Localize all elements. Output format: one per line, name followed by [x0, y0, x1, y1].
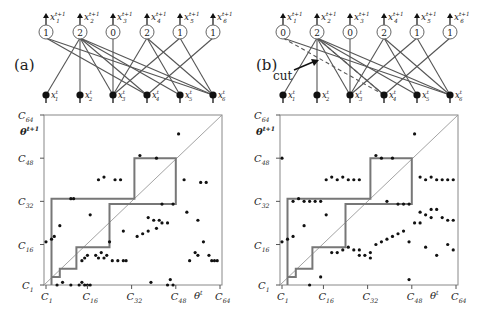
data-point — [83, 283, 86, 286]
dashed-edge — [283, 38, 384, 95]
data-point — [402, 202, 405, 205]
data-point — [185, 211, 188, 214]
data-point — [55, 283, 58, 286]
data-point — [302, 200, 305, 203]
data-point — [155, 227, 158, 230]
data-point — [358, 248, 361, 251]
data-point — [452, 219, 455, 222]
panel-b: (b)0xt+112xt+120xt+132xt+141xt+151xt+16x… — [254, 11, 470, 304]
output-label: xt+12 — [84, 11, 100, 24]
edge — [384, 38, 417, 95]
data-point — [177, 132, 180, 135]
data-point — [369, 256, 372, 259]
output-count: 0 — [110, 28, 116, 38]
data-point — [325, 178, 328, 181]
y-tick-label: C32 — [18, 196, 34, 209]
data-point — [297, 197, 300, 200]
data-point — [347, 246, 350, 249]
edge — [350, 38, 417, 95]
data-point — [452, 248, 455, 251]
data-point — [108, 240, 111, 243]
data-point — [424, 213, 427, 216]
data-point — [308, 200, 311, 203]
input-label: xt3 — [118, 89, 126, 101]
data-point — [102, 256, 105, 259]
data-point — [69, 283, 72, 286]
output-count: 0 — [347, 28, 353, 38]
data-point — [97, 256, 100, 259]
output-count: 0 — [280, 28, 286, 38]
data-point — [358, 178, 361, 181]
arrow-head-icon — [381, 13, 387, 18]
output-label: xt+11 — [287, 11, 303, 24]
data-point — [430, 216, 433, 219]
arrow-head-icon — [177, 13, 183, 18]
data-point — [418, 211, 421, 214]
data-point — [291, 200, 294, 203]
data-point — [280, 240, 283, 243]
data-point — [391, 157, 394, 160]
input-label: xt5 — [422, 89, 430, 101]
data-point — [396, 232, 399, 235]
data-point — [291, 235, 294, 238]
arrow-head-icon — [43, 13, 49, 18]
data-point — [314, 200, 317, 203]
data-point — [188, 259, 191, 262]
data-point — [330, 251, 333, 254]
data-point — [341, 248, 344, 251]
data-point — [286, 238, 289, 241]
y-axis-label: θt+1 — [20, 125, 39, 138]
x-tick-label: C1 — [277, 291, 289, 304]
y-tick-label: C1 — [258, 280, 270, 293]
data-point — [58, 224, 61, 227]
x-tick-label: C48 — [407, 291, 423, 304]
output-label: xt+15 — [421, 11, 437, 24]
data-point — [196, 254, 199, 257]
data-point — [138, 154, 141, 157]
output-count: 1 — [43, 28, 49, 38]
data-point — [147, 216, 150, 219]
input-label: xt4 — [389, 89, 397, 101]
figure: (a)1xt+112xt+120xt+132xt+141xt+151xt+16x… — [0, 0, 480, 317]
input-label: xt6 — [218, 89, 226, 101]
output-count: 1 — [210, 28, 216, 38]
input-label: xt1 — [288, 89, 296, 101]
data-point — [202, 240, 205, 243]
panel-label: (a) — [14, 56, 35, 74]
data-point — [446, 243, 449, 246]
data-point — [207, 254, 210, 257]
output-label: xt+16 — [454, 11, 470, 24]
edge — [147, 38, 180, 95]
data-point — [385, 200, 388, 203]
data-point — [136, 235, 139, 238]
y-tick-label: C1 — [22, 280, 34, 293]
data-point — [418, 175, 421, 178]
input-label: xt1 — [51, 89, 59, 101]
data-point — [441, 178, 444, 181]
data-point — [171, 202, 174, 205]
data-point — [435, 254, 438, 257]
data-point — [124, 259, 127, 262]
data-point — [325, 213, 328, 216]
arrow-head-icon — [447, 13, 453, 18]
data-point — [352, 248, 355, 251]
data-point — [182, 178, 185, 181]
network-diagram: (a)1xt+112xt+120xt+132xt+141xt+151xt+16x… — [14, 11, 233, 103]
data-point — [446, 178, 449, 181]
edge — [113, 38, 147, 95]
data-point — [160, 202, 163, 205]
data-point — [308, 283, 311, 286]
x-tick-label: C16 — [82, 291, 98, 304]
x-tick-label: C64 — [215, 291, 231, 304]
data-point — [100, 251, 103, 254]
arrow-head-icon — [414, 13, 420, 18]
data-point — [358, 254, 361, 257]
output-label: xt+16 — [217, 11, 233, 24]
data-point — [430, 208, 433, 211]
input-label: xt5 — [185, 89, 193, 101]
data-point — [89, 213, 92, 216]
edge — [180, 38, 213, 95]
panel-a: (a)1xt+112xt+120xt+132xt+141xt+151xt+16x… — [14, 11, 233, 304]
output-count: 1 — [447, 28, 453, 38]
output-label: xt+13 — [117, 11, 133, 24]
